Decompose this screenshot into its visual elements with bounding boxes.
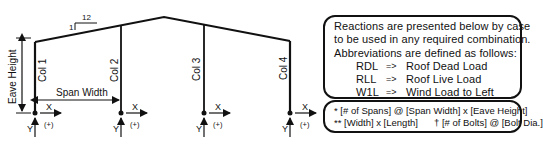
notes-box: * [# of Spans] @ [Span Width] x [Eave He… xyxy=(323,100,522,133)
arrow-icon: => xyxy=(386,60,406,73)
svg-text:(+): (+) xyxy=(213,120,223,129)
legend-intro-line: Reactions are presented below by case xyxy=(334,20,520,33)
svg-text:X: X xyxy=(215,102,221,112)
arrow-icon: => xyxy=(386,86,406,99)
abbreviation-code: RDL xyxy=(356,60,386,73)
note-bolts: † [# of Bolts] @ [Bolt Dia.] xyxy=(434,117,543,128)
support-col-4: X Y (+) xyxy=(282,102,316,137)
svg-text:X: X xyxy=(46,102,52,112)
svg-text:Eave Height: Eave Height xyxy=(7,49,18,104)
svg-text:Span Width: Span Width xyxy=(56,87,108,98)
legend-intro-line: Abbreviations are defined as follows: xyxy=(334,47,520,60)
abbreviation-meaning: Roof Live Load xyxy=(406,73,481,86)
svg-text:(+): (+) xyxy=(300,120,310,129)
span-width-dimension: Span Width xyxy=(37,87,119,100)
abbreviation-code: RLL xyxy=(356,73,386,86)
abbreviation-meaning: Wind Load to Left xyxy=(406,86,494,99)
slope-indicator: 1 12 xyxy=(69,13,97,32)
support-col-1: X Y (+) xyxy=(27,102,61,137)
svg-text:Y: Y xyxy=(113,124,119,134)
svg-text:Y: Y xyxy=(27,124,33,134)
eave-height-dimension: Eave Height xyxy=(7,38,31,113)
abbreviation-row: RLL => Roof Live Load xyxy=(334,73,520,86)
abbreviation-code: W1L xyxy=(356,86,386,99)
note-dimensions: ** [Width] x [Length] xyxy=(334,117,418,128)
column-4-label: Col 4 xyxy=(278,56,289,80)
column-1-label: Col 1 xyxy=(37,58,48,82)
svg-text:Y: Y xyxy=(196,124,202,134)
support-col-2: X Y (+) xyxy=(113,102,147,137)
note-line: ** [Width] x [Length]† [# of Bolts] @ [B… xyxy=(334,117,520,129)
svg-text:X: X xyxy=(132,102,138,112)
abbreviation-row: RDL => Roof Dead Load xyxy=(334,60,520,73)
svg-text:(+): (+) xyxy=(130,120,140,129)
legend-intro-line: to be used in any required combination. xyxy=(334,33,520,46)
column-3-label: Col 3 xyxy=(191,57,202,81)
legend-box: Reactions are presented below by case to… xyxy=(323,15,522,99)
svg-text:(+): (+) xyxy=(44,120,54,129)
svg-text:1: 1 xyxy=(69,23,74,32)
note-line: * [# of Spans] @ [Span Width] x [Eave He… xyxy=(334,105,520,117)
abbreviation-meaning: Roof Dead Load xyxy=(406,60,488,73)
support-col-3: X Y (+) xyxy=(196,102,230,137)
svg-text:X: X xyxy=(302,102,308,112)
abbreviation-row: W1L => Wind Load to Left xyxy=(334,86,520,99)
column-2-label: Col 2 xyxy=(109,58,120,82)
arrow-icon: => xyxy=(386,73,406,86)
svg-text:12: 12 xyxy=(82,13,91,22)
svg-text:Y: Y xyxy=(282,124,288,134)
